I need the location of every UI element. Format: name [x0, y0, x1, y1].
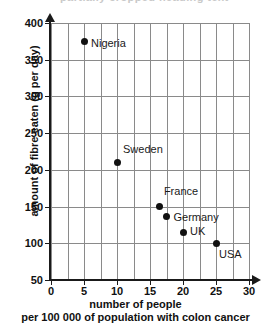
y-axis-tick	[45, 243, 50, 244]
grid-line-vertical	[51, 23, 52, 280]
x-axis-tick-label: 15	[138, 286, 162, 297]
y-axis-tick	[45, 60, 50, 61]
data-point-usa[interactable]	[213, 240, 220, 247]
y-axis-tick	[45, 170, 50, 171]
grid-line-vertical	[167, 23, 168, 280]
y-axis-tick	[45, 96, 50, 97]
x-axis-title: number of people per 100 000 of populati…	[0, 298, 271, 324]
y-axis-tick	[45, 280, 50, 281]
y-axis-tick-label: 400	[25, 18, 43, 29]
y-axis-tick	[45, 23, 50, 24]
grid-line-vertical	[233, 23, 234, 280]
x-axis-title-line2: per 100 000 of population with colon can…	[0, 311, 271, 324]
data-point-label-sweden: Sweden	[123, 144, 163, 155]
grid-line-horizontal	[51, 133, 249, 134]
grid-line-vertical	[183, 23, 184, 280]
data-point-label-germany: Germany	[174, 212, 219, 223]
data-point-label-usa: USA	[219, 249, 242, 260]
x-axis-arrow-icon	[252, 275, 261, 285]
grid-line-horizontal	[51, 23, 249, 24]
data-point-label-uk: UK	[190, 226, 205, 237]
grid-line-horizontal	[51, 207, 249, 208]
grid-line-vertical	[101, 23, 102, 280]
x-axis-tick-label: 0	[39, 286, 63, 297]
y-axis-tick-label: 50	[31, 275, 43, 286]
data-point-nigeria[interactable]	[81, 38, 88, 45]
data-point-label-nigeria: Nigeria	[91, 38, 126, 49]
data-point-uk[interactable]	[180, 229, 187, 236]
grid-line-horizontal	[51, 170, 249, 171]
y-axis-tick	[45, 207, 50, 208]
grid-line-vertical	[68, 23, 69, 280]
x-axis-tick-label: 10	[105, 286, 129, 297]
data-point-label-france: France	[164, 186, 198, 197]
grid-line-vertical	[117, 23, 118, 280]
scatter-chart: 50100150200250300350400 051015202530 Nig…	[0, 0, 271, 326]
x-axis-tick-label: 20	[171, 286, 195, 297]
x-axis-tick-label: 25	[204, 286, 228, 297]
grid-line-vertical	[200, 23, 201, 280]
x-axis-tick-label: 30	[237, 286, 261, 297]
y-axis-arrow-icon	[45, 13, 55, 22]
data-point-sweden[interactable]	[114, 159, 121, 166]
y-axis-tick	[45, 133, 50, 134]
y-axis-title: amount of fibre eaten (g per day)	[28, 31, 40, 231]
grid-line-horizontal	[51, 60, 249, 61]
grid-line-vertical	[84, 23, 85, 280]
data-point-germany[interactable]	[163, 213, 170, 220]
grid-line-vertical	[249, 23, 250, 280]
x-axis-line	[51, 279, 255, 281]
y-axis-tick-label: 100	[25, 238, 43, 249]
x-axis-title-line1: number of people	[89, 298, 181, 310]
grid-line-horizontal	[51, 96, 249, 97]
x-axis-tick-label: 5	[72, 286, 96, 297]
